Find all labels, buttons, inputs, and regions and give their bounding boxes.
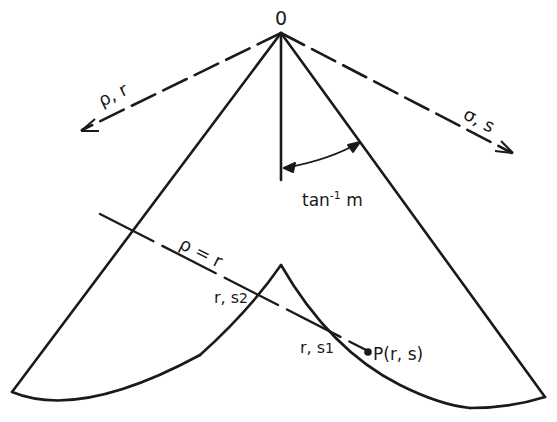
point-s1-label: r, s1 xyxy=(300,338,334,357)
angle-label: tan-1 m xyxy=(302,189,363,210)
angle-arrow-left-icon xyxy=(284,163,295,172)
rho-equals-r-line xyxy=(100,214,370,352)
origin-label: 0 xyxy=(275,7,287,29)
rho-axis-label: ρ, r xyxy=(95,78,132,110)
characteristic-cone-diagram: 0 ρ, r σ, s tan-1 m ρ = r r, s2 r, s1 P(… xyxy=(0,0,557,422)
sigma-axis-dashed xyxy=(281,33,512,153)
lower-right-boundary-curve xyxy=(470,397,545,408)
lower-left-boundary-curve xyxy=(12,355,200,400)
point-p-label: P(r, s) xyxy=(373,344,423,364)
cone-left-edge xyxy=(12,33,281,392)
cusp-right-curve xyxy=(281,265,470,408)
point-p-dot xyxy=(365,349,371,355)
rho-axis-dashed xyxy=(82,33,281,130)
angle-arrow-right-icon xyxy=(348,142,360,152)
cusp-left-curve xyxy=(200,265,281,355)
point-s2-label: r, s2 xyxy=(214,288,248,307)
sigma-axis-label: σ, s xyxy=(460,103,498,137)
